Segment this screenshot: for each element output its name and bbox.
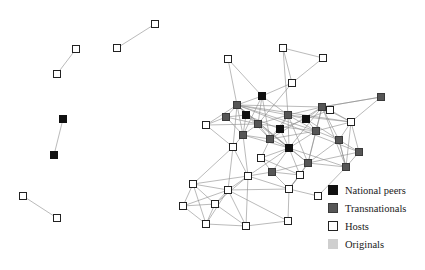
graph-node-host[interactable] xyxy=(225,187,232,194)
graph-node-national[interactable] xyxy=(277,126,284,133)
graph-edge xyxy=(351,122,359,152)
graph-edge xyxy=(272,172,300,175)
graph-edge xyxy=(292,58,323,83)
graph-node-host[interactable] xyxy=(212,201,219,208)
originals-swatch xyxy=(328,239,338,249)
network-graph-figure: National peers Transnationals Hosts Orig… xyxy=(0,0,425,270)
graph-node-transnational[interactable] xyxy=(356,149,363,156)
graph-edge xyxy=(228,147,233,190)
graph-node-national[interactable] xyxy=(303,116,310,123)
graph-edge xyxy=(243,135,270,139)
graph-node-host[interactable] xyxy=(190,181,197,188)
graph-edge xyxy=(237,105,359,152)
legend-label-transnationals: Transnationals xyxy=(345,203,406,214)
graph-edge xyxy=(246,221,288,226)
graph-edge xyxy=(243,135,248,176)
graph-node-transnational[interactable] xyxy=(285,112,292,119)
graph-node-host[interactable] xyxy=(315,193,322,200)
graph-edge xyxy=(23,196,57,218)
hosts-swatch xyxy=(328,221,338,231)
graph-edge xyxy=(228,190,246,226)
graph-node-host[interactable] xyxy=(245,173,252,180)
graph-edge xyxy=(54,119,63,155)
transnationals-swatch xyxy=(328,203,338,213)
node-type-legend: National peers Transnationals Hosts Orig… xyxy=(328,181,424,253)
graph-node-transnational[interactable] xyxy=(305,160,312,167)
graph-node-national[interactable] xyxy=(60,116,67,123)
legend-item-originals: Originals xyxy=(328,235,424,253)
graph-node-host[interactable] xyxy=(203,122,210,129)
graph-node-host[interactable] xyxy=(73,46,80,53)
graph-node-host[interactable] xyxy=(230,144,237,151)
graph-edge xyxy=(206,224,246,226)
graph-edge xyxy=(193,147,233,184)
graph-edge xyxy=(289,189,318,196)
graph-edge xyxy=(283,48,323,58)
graph-edge xyxy=(206,124,258,125)
legend-item-national-peers: National peers xyxy=(328,181,424,199)
graph-node-transnational[interactable] xyxy=(336,137,343,144)
graph-node-host[interactable] xyxy=(54,71,61,78)
graph-edge xyxy=(183,190,228,206)
legend-item-transnationals: Transnationals xyxy=(328,199,424,217)
graph-node-transnational[interactable] xyxy=(378,94,385,101)
graph-edge xyxy=(117,24,155,48)
graph-node-host[interactable] xyxy=(348,119,355,126)
graph-node-transnational[interactable] xyxy=(234,102,241,109)
legend-label-originals: Originals xyxy=(345,239,384,250)
national-peers-swatch xyxy=(328,185,338,195)
legend-label-hosts: Hosts xyxy=(345,221,369,232)
graph-edge xyxy=(288,115,289,148)
graph-node-national[interactable] xyxy=(243,112,250,119)
graph-node-national[interactable] xyxy=(51,152,58,159)
graph-node-transnational[interactable] xyxy=(267,136,274,143)
graph-node-national[interactable] xyxy=(259,93,266,100)
graph-node-host[interactable] xyxy=(203,221,210,228)
graph-edge xyxy=(228,189,289,190)
graph-node-host[interactable] xyxy=(225,56,232,63)
graph-node-transnational[interactable] xyxy=(240,132,247,139)
graph-node-transnational[interactable] xyxy=(269,169,276,176)
graph-edge xyxy=(228,59,262,96)
graph-node-transnational[interactable] xyxy=(313,128,320,135)
graph-node-host[interactable] xyxy=(243,223,250,230)
graph-edge xyxy=(228,190,288,221)
graph-node-host[interactable] xyxy=(285,218,292,225)
legend-label-national-peers: National peers xyxy=(345,185,406,196)
graph-node-host[interactable] xyxy=(114,45,121,52)
graph-node-host[interactable] xyxy=(180,203,187,210)
graph-node-host[interactable] xyxy=(297,172,304,179)
graph-edge xyxy=(262,83,292,96)
graph-node-transnational[interactable] xyxy=(319,104,326,111)
graph-edge xyxy=(246,115,280,129)
graph-edge xyxy=(233,147,248,176)
graph-node-host[interactable] xyxy=(280,45,287,52)
graph-edge xyxy=(288,189,289,221)
graph-node-host[interactable] xyxy=(327,107,334,114)
graph-node-transnational[interactable] xyxy=(343,164,350,171)
graph-edge xyxy=(206,105,237,125)
graph-node-transnational[interactable] xyxy=(255,121,262,128)
graph-node-host[interactable] xyxy=(258,155,265,162)
graph-edge xyxy=(228,59,237,105)
graph-edge xyxy=(322,97,381,107)
graph-node-national[interactable] xyxy=(286,145,293,152)
graph-node-host[interactable] xyxy=(286,186,293,193)
graph-node-host[interactable] xyxy=(152,21,159,28)
graph-edge xyxy=(351,97,381,122)
graph-node-host[interactable] xyxy=(20,193,27,200)
graph-edge xyxy=(215,204,246,226)
graph-edge xyxy=(206,125,233,147)
graph-node-host[interactable] xyxy=(54,215,61,222)
graph-node-host[interactable] xyxy=(320,55,327,62)
graph-edge xyxy=(246,176,248,226)
legend-item-hosts: Hosts xyxy=(328,217,424,235)
graph-node-host[interactable] xyxy=(289,80,296,87)
graph-node-transnational[interactable] xyxy=(223,114,230,121)
graph-edge xyxy=(339,140,346,167)
graph-edge xyxy=(233,105,237,147)
